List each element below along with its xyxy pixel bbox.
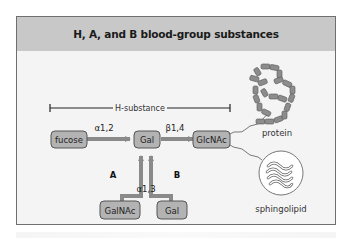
node-gal-b: Gal (157, 201, 187, 219)
linkage-beta14: β1,4 (166, 123, 185, 133)
caption-fragment (16, 232, 336, 238)
node-galnac: GalNAc (100, 201, 140, 219)
h-substance-bracket: H-substance (50, 104, 230, 113)
node-glcnac: GlcNAc (193, 131, 230, 148)
linkage-alpha13: α1,3 (136, 184, 155, 194)
sphingolipid-icon (259, 151, 303, 195)
branch-arrows (122, 156, 171, 208)
node-fucose: fucose (51, 131, 87, 148)
h-substance-label: H-substance (115, 104, 165, 113)
linkage-alpha12: α1,2 (94, 123, 113, 133)
sphingolipid-label: sphingolipid (255, 204, 306, 214)
node-fucose-label: fucose (55, 135, 83, 145)
branch-label-a: A (110, 170, 117, 180)
node-galnac-label: GalNAc (105, 206, 136, 216)
protein-label: protein (262, 128, 292, 138)
connector-lipid (230, 145, 262, 160)
protein-icon (249, 64, 295, 124)
node-gal-b-label: Gal (165, 206, 179, 216)
node-gal-main: Gal (134, 131, 160, 148)
pathway-diagram: H-substance α1,2 β1,4 α1,3 A B fucose Ga… (0, 0, 350, 242)
branch-label-b: B (174, 170, 180, 180)
node-gal-main-label: Gal (140, 135, 154, 145)
node-glcnac-label: GlcNAc (196, 135, 227, 145)
